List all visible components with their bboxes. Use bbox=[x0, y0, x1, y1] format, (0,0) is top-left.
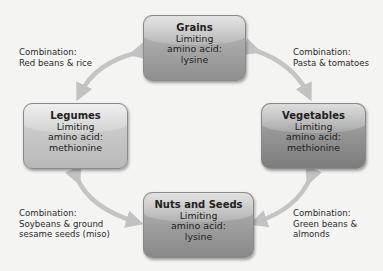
node-line: lysine bbox=[144, 232, 253, 243]
combination-text: Red beans & rice bbox=[19, 58, 92, 69]
node-title: Legumes bbox=[24, 111, 127, 122]
combination-text: almonds bbox=[293, 229, 357, 240]
node-nuts-and-seeds: Nuts and Seeds Limiting amino acid: lysi… bbox=[143, 192, 254, 258]
node-line: lysine bbox=[144, 55, 245, 66]
node-line: methionine bbox=[262, 143, 365, 154]
combination-heading: Combination: bbox=[293, 47, 369, 58]
combination-vegetables-nuts: Combination: Green beans & almonds bbox=[293, 208, 357, 240]
combination-text: Soybeans & ground bbox=[19, 219, 110, 230]
node-title: Nuts and Seeds bbox=[144, 200, 253, 211]
combination-heading: Combination: bbox=[19, 47, 92, 58]
combination-text: sesame seeds (miso) bbox=[19, 229, 110, 240]
node-grains: Grains Limiting amino acid: lysine bbox=[143, 15, 246, 81]
combination-heading: Combination: bbox=[19, 208, 110, 219]
node-vegetables: Vegetables Limiting amino acid: methioni… bbox=[261, 103, 366, 169]
combination-heading: Combination: bbox=[293, 208, 357, 219]
combination-grains-legumes: Combination: Red beans & rice bbox=[19, 47, 92, 68]
node-title: Vegetables bbox=[262, 111, 365, 122]
combination-text: Pasta & tomatoes bbox=[293, 58, 369, 69]
node-legumes: Legumes Limiting amino acid: methionine bbox=[23, 103, 128, 169]
combination-text: Green beans & bbox=[293, 219, 357, 230]
combination-grains-vegetables: Combination: Pasta & tomatoes bbox=[293, 47, 369, 68]
node-line: methionine bbox=[24, 143, 127, 154]
node-title: Grains bbox=[144, 23, 245, 34]
combination-legumes-nuts: Combination: Soybeans & ground sesame se… bbox=[19, 208, 110, 240]
